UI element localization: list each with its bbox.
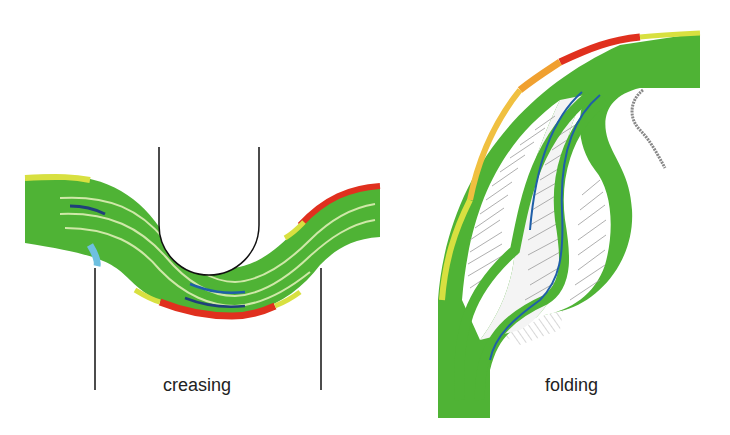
diagram-canvas [0, 0, 730, 435]
folding-diagram [438, 33, 700, 418]
creasing-diagram [25, 147, 380, 390]
folding-label: folding [545, 375, 598, 396]
folding-tool-path [632, 90, 665, 168]
crease-rule-tool [159, 147, 259, 275]
creasing-label: creasing [163, 375, 231, 396]
